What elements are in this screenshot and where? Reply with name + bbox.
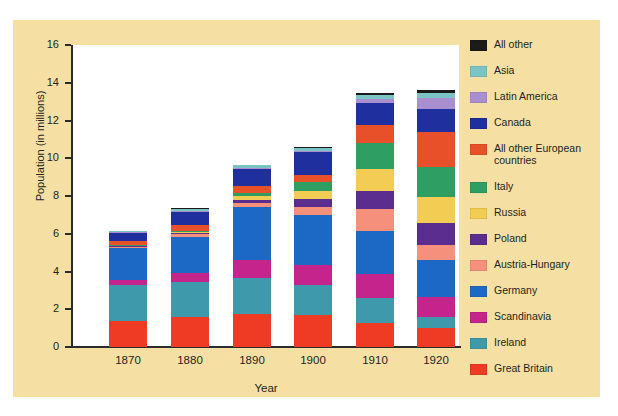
bar-1890 <box>233 165 271 347</box>
bar-segment <box>294 191 332 199</box>
legend-item[interactable]: Italy <box>470 180 513 193</box>
y-tick-label: 16 <box>33 38 59 50</box>
y-axis-title: Population (in millions) <box>34 51 46 241</box>
legend-label: All other <box>494 38 533 50</box>
bar-segment <box>417 317 455 328</box>
bar-1870 <box>109 231 147 347</box>
bar-segment <box>356 274 394 298</box>
bar-segment <box>233 278 271 314</box>
legend-item[interactable]: Ireland <box>470 336 526 349</box>
bar-segment <box>294 152 332 175</box>
y-tick-label: 2 <box>33 302 59 314</box>
legend-item[interactable]: Canada <box>470 116 531 129</box>
legend-swatch <box>470 364 487 375</box>
bar-segment <box>294 175 332 183</box>
bar-segment <box>294 199 332 207</box>
bar-segment <box>109 285 147 321</box>
legend-item[interactable]: Asia <box>470 64 514 77</box>
bar-segment <box>417 132 455 167</box>
x-tick-label: 1880 <box>165 354 215 366</box>
legend-label: Austria-Hungary <box>494 258 570 270</box>
legend-swatch <box>470 144 487 155</box>
x-tick-label: 1910 <box>350 354 400 366</box>
bars-layer <box>71 45 461 347</box>
bar-segment <box>356 298 394 323</box>
bar-segment <box>233 314 271 347</box>
bar-segment <box>171 282 209 317</box>
legend-item[interactable]: Scandinavia <box>470 310 551 323</box>
legend-label: Scandinavia <box>494 310 551 322</box>
bar-segment <box>356 103 394 126</box>
legend-swatch <box>470 234 487 245</box>
x-tick-label: 1900 <box>288 354 338 366</box>
legend-swatch <box>470 182 487 193</box>
legend-swatch <box>470 66 487 77</box>
bar-segment <box>417 167 455 197</box>
bar-segment <box>417 297 455 317</box>
legend-swatch <box>470 92 487 103</box>
bar-1920 <box>417 90 455 347</box>
legend-label: Poland <box>494 232 527 244</box>
bar-segment <box>417 197 455 223</box>
bar-segment <box>109 321 147 347</box>
bar-segment <box>171 273 209 281</box>
bar-1880 <box>171 208 209 347</box>
legend-item[interactable]: Latin America <box>470 90 558 103</box>
legend-label: Ireland <box>494 336 526 348</box>
legend-label: Russia <box>494 206 526 218</box>
bar-segment <box>417 109 455 132</box>
bar-segment <box>417 328 455 347</box>
x-axis-title: Year <box>71 382 461 394</box>
bar-segment <box>109 248 147 280</box>
chart-panel: 0246810121416 Population (in millions) 1… <box>13 20 600 397</box>
legend-swatch <box>470 118 487 129</box>
bar-segment <box>294 315 332 347</box>
bar-segment <box>294 215 332 265</box>
bar-segment <box>356 191 394 209</box>
bar-segment <box>356 323 394 347</box>
legend-label: Germany <box>494 284 537 296</box>
bar-segment <box>171 212 209 226</box>
legend-label: Italy <box>494 180 513 192</box>
legend-label: Asia <box>494 64 514 76</box>
legend-item[interactable]: Poland <box>470 232 527 245</box>
bar-segment <box>294 182 332 191</box>
bar-segment <box>356 209 394 231</box>
legend-label: All other European countries <box>494 142 581 166</box>
bar-segment <box>233 260 271 278</box>
bar-segment <box>356 169 394 192</box>
legend-item[interactable]: Russia <box>470 206 526 219</box>
bar-segment <box>294 265 332 285</box>
legend-swatch <box>470 260 487 271</box>
legend-item[interactable]: All other <box>470 38 533 51</box>
bar-segment <box>417 260 455 297</box>
bar-1910 <box>356 93 394 347</box>
bar-segment <box>233 169 271 187</box>
bar-segment <box>171 317 209 347</box>
bar-segment <box>233 207 271 260</box>
legend-label: Canada <box>494 116 531 128</box>
x-tick-label: 1920 <box>411 354 461 366</box>
bar-segment <box>171 237 209 274</box>
bar-segment <box>356 143 394 168</box>
legend-item[interactable]: Great Britain <box>470 362 553 375</box>
bar-segment <box>356 231 394 274</box>
legend-item[interactable]: Austria-Hungary <box>470 258 570 271</box>
legend-item[interactable]: All other European countries <box>470 142 581 166</box>
figure-root: 0246810121416 Population (in millions) 1… <box>0 0 618 416</box>
legend-swatch <box>470 40 487 51</box>
legend-swatch <box>470 208 487 219</box>
bar-segment <box>356 125 394 143</box>
y-tick-label: 0 <box>33 340 59 352</box>
legend-swatch <box>470 312 487 323</box>
legend-swatch <box>470 286 487 297</box>
x-tick-label: 1890 <box>227 354 277 366</box>
x-tick-label: 1870 <box>103 354 153 366</box>
bar-segment <box>417 98 455 110</box>
legend-label: Great Britain <box>494 362 553 374</box>
bar-segment <box>109 233 147 241</box>
legend-item[interactable]: Germany <box>470 284 537 297</box>
bar-segment <box>294 207 332 215</box>
bar-segment <box>417 223 455 245</box>
bar-1900 <box>294 147 332 347</box>
